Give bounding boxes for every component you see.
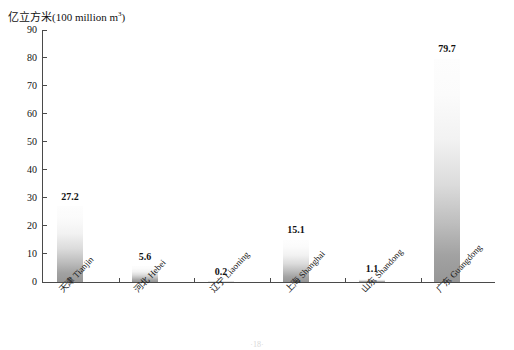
x-axis-tick [345, 278, 346, 282]
bar-chart-figure: 亿立方米(100 million m3) 90 80 70 60 50 40 [0, 0, 514, 350]
bar-value-tianjin: 27.2 [57, 191, 83, 203]
y-tick-mark [43, 85, 47, 86]
y-tick-label: 20 [27, 219, 37, 232]
x-axis-tick [119, 278, 120, 282]
x-axis-tick [270, 278, 271, 282]
y-tick-label: 80 [27, 51, 37, 64]
y-tick-label: 40 [27, 163, 37, 176]
y-tick-label: 60 [27, 107, 37, 120]
x-axis-tick [421, 278, 422, 282]
y-tick-label: 10 [27, 247, 37, 260]
bar-value-guangdong: 79.7 [434, 43, 460, 55]
y-tick-label: 0 [32, 275, 37, 288]
bar-value-hebei: 5.6 [132, 251, 158, 263]
y-tick-mark [43, 57, 47, 58]
y-tick-mark [43, 113, 47, 114]
y-tick-mark [43, 169, 47, 170]
y-tick-mark [43, 141, 47, 142]
bar-value-shanghai: 15.1 [283, 224, 309, 236]
plot-area: 90 80 70 60 50 40 30 20 [42, 30, 495, 283]
y-tick-mark [43, 30, 47, 31]
x-axis-tick [194, 278, 195, 282]
y-tick-mark [43, 197, 47, 198]
bar-guangdong[interactable] [434, 59, 460, 282]
y-tick-label: 70 [27, 79, 37, 92]
y-tick-mark [43, 225, 47, 226]
y-tick-label: 30 [27, 191, 37, 204]
y-axis-unit-text: 亿立方米(100 million m [8, 11, 118, 23]
y-axis-unit-tail: ) [122, 11, 126, 23]
y-axis-unit-caption: 亿立方米(100 million m3) [8, 8, 125, 24]
y-tick-mark [43, 253, 47, 254]
y-tick-label: 90 [27, 23, 37, 36]
y-tick-label: 50 [27, 135, 37, 148]
page-number: ·18· [0, 340, 514, 349]
